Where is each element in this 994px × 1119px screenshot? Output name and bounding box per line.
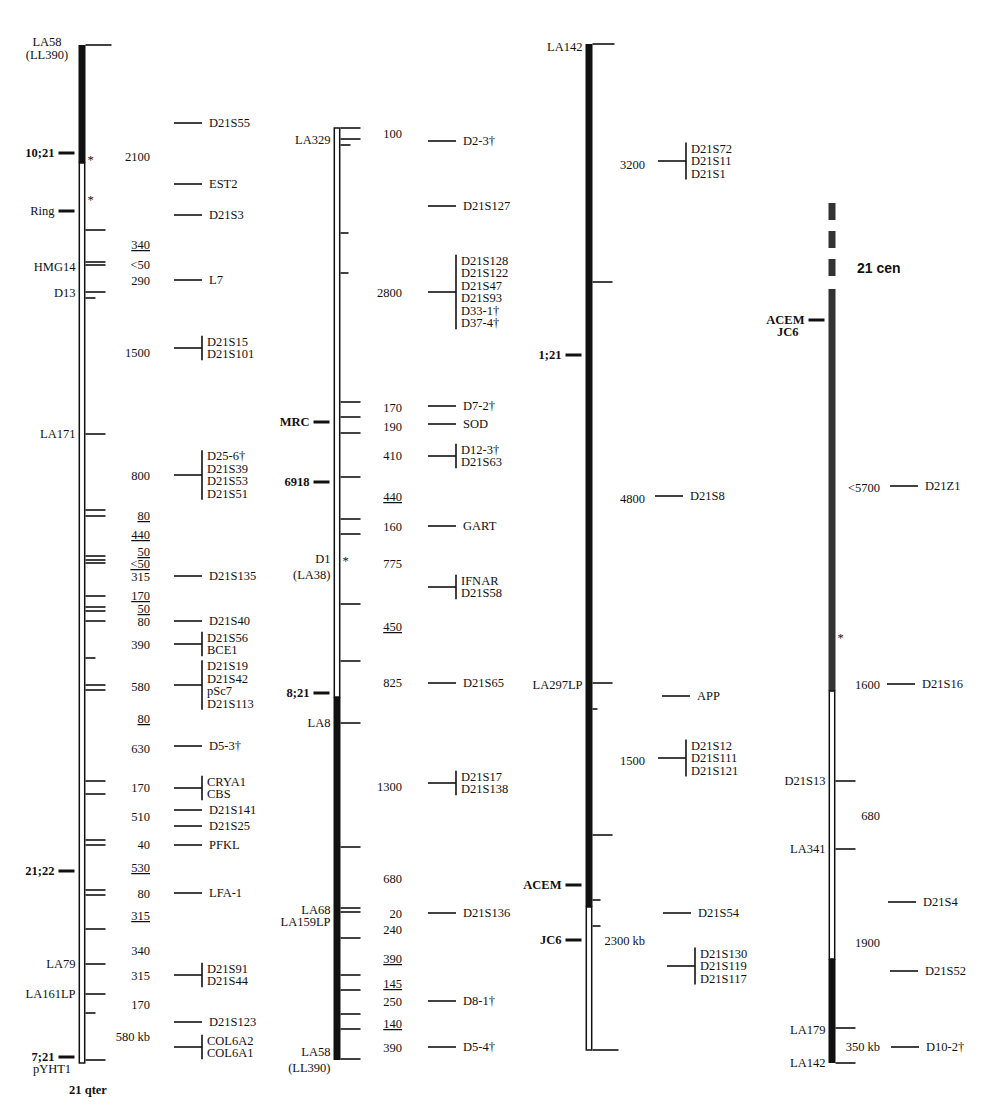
distance-value: 680 (861, 809, 880, 823)
panel-3: 1;21ACEMJC6LA142LA297LP3200480015002300 … (523, 40, 747, 1050)
translocation-label: 10;21 (25, 146, 54, 160)
chromosome-segment-hollow (334, 128, 339, 697)
breakpoint-label: LA341 (790, 842, 825, 856)
distance-value: 80 (138, 712, 151, 726)
breakpoint-label: LA329 (295, 133, 330, 147)
distance-value: 1600 (855, 678, 880, 692)
star-icon: * (88, 193, 94, 207)
distance-value: 680 (383, 872, 402, 886)
probe-label: D21Z1 (925, 479, 960, 493)
translocation-label: 6918 (285, 475, 310, 489)
probe-label: D21S25 (209, 819, 250, 833)
panel-1: 10;21Ring21;227;21HMG14D13LA171LA79LA161… (25, 35, 256, 1097)
probe-label: D21S44 (207, 974, 249, 988)
probe-label: D2-3† (463, 134, 495, 148)
breakpoint-label: (LA38) (293, 568, 331, 582)
distance-value: 390 (131, 638, 150, 652)
chromosome-segment-solid (334, 697, 341, 1060)
probe-label: D21S54 (698, 906, 740, 920)
distance-value: 510 (131, 810, 150, 824)
probe-label: D8-1† (463, 994, 495, 1008)
probe-label: D21S51 (207, 487, 248, 501)
centromere-label: 21 cen (857, 260, 901, 276)
breakpoint-label: LA297LP (533, 678, 583, 692)
centromere-segment (829, 259, 836, 276)
distance-value: 170 (131, 998, 150, 1012)
distance-value: 340 (131, 944, 150, 958)
distance-value: 100 (383, 127, 402, 141)
breakpoint-label: LA161LP (26, 987, 76, 1001)
distance-value: 390 (383, 952, 402, 966)
distance-value: 250 (383, 995, 402, 1009)
distance-value: 190 (383, 420, 402, 434)
breakpoint-label: LA8 (308, 716, 331, 730)
end-label: pYHT1 (33, 1062, 71, 1076)
probe-label: D21S16 (922, 677, 963, 691)
breakpoint-label: LA171 (40, 427, 75, 441)
probe-label: D21S8 (690, 489, 725, 503)
translocation-label: ACEM (523, 878, 561, 892)
translocation-label: MRC (280, 415, 310, 429)
probe-label: D21S117 (700, 972, 747, 986)
distance-value: 410 (383, 449, 402, 463)
distance-value: 440 (131, 528, 150, 542)
distance-value: 800 (131, 469, 150, 483)
panel-2: MRC69188;21LA329D1(LA38)LA8LA68LA159LPLA… (280, 127, 511, 1075)
breakpoint-label: LA142 (790, 1056, 825, 1070)
translocation-label: 8;21 (287, 686, 310, 700)
distance-value: 4800 (620, 492, 645, 506)
distance-value: 140 (383, 1017, 402, 1031)
distance-value: 315 (131, 969, 150, 983)
probe-label: LFA-1 (209, 886, 242, 900)
probe-label: CBS (207, 787, 231, 801)
probe-label: D21S121 (691, 764, 738, 778)
distance-value: 1500 (125, 346, 150, 360)
distance-value: 315 (131, 909, 150, 923)
distance-value: 1900 (855, 936, 880, 950)
probe-label: D21S127 (463, 199, 510, 213)
distance-value: 3200 (620, 158, 645, 172)
star-icon: * (88, 153, 94, 167)
distance-value: 1500 (620, 754, 645, 768)
breakpoint-label: D13 (54, 286, 76, 300)
translocation-label: 21;22 (25, 864, 54, 878)
probe-label: SOD (463, 417, 488, 431)
centromere-segment (829, 289, 836, 691)
probe-label: D21S141 (209, 803, 256, 817)
star-icon: * (343, 554, 349, 568)
probe-label: D37-4† (461, 316, 499, 330)
distance-value: 160 (383, 520, 402, 534)
probe-label: D21S40 (209, 614, 250, 628)
distance-value: 170 (383, 401, 402, 415)
probe-label: D21S52 (925, 964, 966, 978)
chromosome-21-map: 10;21Ring21;227;21HMG14D13LA171LA79LA161… (0, 0, 994, 1119)
breakpoint-label: LA142 (547, 40, 582, 54)
distance-value: 80 (138, 509, 151, 523)
breakpoint-label: LA159LP (281, 915, 331, 929)
probe-label: APP (697, 689, 720, 703)
probe-label: D21S138 (461, 782, 508, 796)
distance-value: 825 (383, 676, 402, 690)
distance-value: 450 (383, 620, 402, 634)
distance-value: 240 (383, 923, 402, 937)
probe-label: D21S135 (209, 569, 256, 583)
distance-value: 390 (383, 1041, 402, 1055)
centromere-segment (829, 231, 836, 248)
distance-value: 80 (138, 887, 151, 901)
distance-value: 775 (383, 557, 402, 571)
probe-label: BCE1 (207, 643, 238, 657)
distance-value: 80 (138, 615, 151, 629)
probe-label: L7 (209, 273, 223, 287)
distance-value: <50 (130, 557, 150, 571)
centromere-segment (829, 203, 836, 220)
distance-value: 145 (383, 977, 402, 991)
map-canvas: 10;21Ring21;227;21HMG14D13LA171LA79LA161… (0, 0, 994, 1119)
breakpoint-label: D1 (315, 552, 330, 566)
distance-value: 2100 (125, 150, 150, 164)
probe-label: D21S55 (209, 116, 250, 130)
breakpoint-label: HMG14 (34, 260, 76, 274)
probe-label: D21S65 (463, 676, 504, 690)
probe-label: D21S101 (207, 347, 254, 361)
probe-label: D21S1 (691, 167, 726, 181)
distance-value: <50 (130, 258, 150, 272)
